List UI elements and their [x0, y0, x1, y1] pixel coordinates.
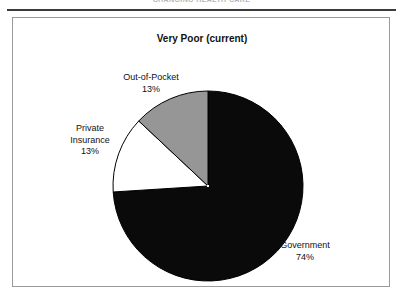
- pie-label-private-insurance-name-line2: Insurance: [47, 135, 133, 147]
- pie-label-government-name: Government: [258, 240, 352, 252]
- page-header-title: CHANGING HEALTH CARE: [0, 0, 403, 3]
- pie-label-out-of-pocket: Out-of-Pocket 13%: [99, 72, 203, 95]
- pie-label-out-of-pocket-name: Out-of-Pocket: [99, 72, 203, 84]
- pie-label-private-insurance: Private Insurance 13%: [47, 123, 133, 158]
- pie-label-private-insurance-value: 13%: [47, 146, 133, 158]
- page-header: CHANGING HEALTH CARE: [0, 0, 403, 11]
- pie-label-government: Government 74%: [258, 240, 352, 263]
- pie-label-private-insurance-name-line1: Private: [47, 123, 133, 135]
- pie-center-marker: [207, 185, 209, 187]
- header-divider-rule: [7, 9, 396, 11]
- pie-label-government-value: 74%: [258, 252, 352, 264]
- chart-figure-frame: Very Poor (current) Out-of-Pocket 13% Pr…: [12, 17, 390, 287]
- pie-label-out-of-pocket-value: 13%: [99, 84, 203, 96]
